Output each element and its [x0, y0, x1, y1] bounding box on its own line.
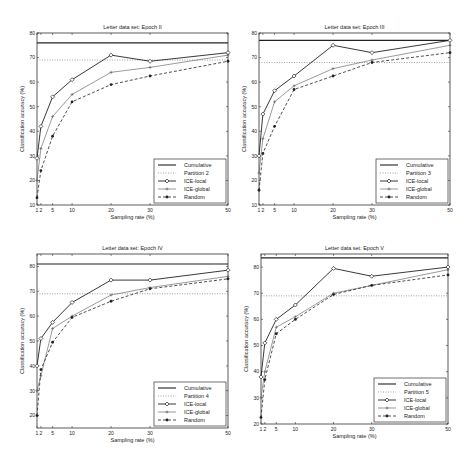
x-axis-label: Sampling rate (%): [110, 214, 154, 220]
y-axis-label: Classification accuracy (%): [241, 86, 247, 152]
y-tick-label: 80: [253, 264, 259, 270]
legend-entry: Random: [406, 194, 427, 200]
legend-entry: ICE-global: [184, 186, 210, 192]
legend-entry: Random: [184, 194, 205, 200]
y-tick-label: 60: [29, 79, 35, 85]
y-tick-label: 10: [29, 202, 35, 208]
chart-epoch-iv: Letter data set: Epoch IV203040506070801…: [0, 230, 237, 459]
y-tick-label: 70: [251, 54, 257, 60]
x-tick-label: 10: [69, 207, 75, 213]
x-tick-label: 2: [263, 426, 266, 432]
legend-entry: Partition 5: [404, 389, 429, 395]
y-tick-label: 40: [251, 128, 257, 134]
x-tick-label: 50: [445, 426, 451, 432]
chart-title: Letter data set: Epoch II: [103, 24, 162, 30]
legend: CumulativePartition 3ICE-localICE-global…: [376, 159, 448, 203]
x-tick-label: 5: [51, 207, 54, 213]
x-tick-label: 30: [147, 207, 153, 213]
y-tick-label: 50: [29, 338, 35, 344]
y-tick-label: 40: [29, 363, 35, 369]
y-tick-label: 30: [253, 395, 259, 401]
y-tick-label: 20: [253, 421, 259, 427]
legend: CumulativePartition 4ICE-localICE-global…: [154, 382, 226, 426]
x-tick-label: 50: [225, 207, 231, 213]
y-axis-label: Classification accuracy (%): [243, 306, 249, 372]
legend-entry: Cumulative: [184, 385, 212, 391]
x-tick-label: 2: [262, 207, 265, 213]
x-tick-label: 10: [291, 207, 297, 213]
legend-entry: Cumulative: [404, 381, 432, 387]
y-tick-label: 20: [29, 177, 35, 183]
x-tick-label: 2: [40, 207, 43, 213]
y-tick-label: 30: [29, 153, 35, 159]
x-axis-label: Sampling rate (%): [110, 437, 154, 443]
x-tick-label: 30: [369, 426, 375, 432]
y-tick-label: 40: [253, 368, 259, 374]
x-tick-label: 1: [258, 207, 261, 213]
legend-entry: ICE-local: [404, 397, 426, 403]
x-tick-label: 30: [369, 207, 375, 213]
y-axis-label: Classification accuracy (%): [19, 308, 25, 374]
chart-epoch-iii: Letter data set: Epoch III10203040506070…: [237, 0, 474, 230]
y-tick-label: 80: [251, 30, 257, 36]
x-tick-label: 1: [36, 207, 39, 213]
x-tick-label: 5: [275, 426, 278, 432]
legend: CumulativePartition 5ICE-localICE-global…: [374, 378, 446, 422]
legend-entry: Cumulative: [406, 162, 434, 168]
y-axis-label: Classification accuracy (%): [19, 86, 25, 152]
series-ice-local: [35, 268, 230, 368]
x-tick-label: 20: [108, 207, 114, 213]
series-ice-global: [36, 275, 230, 392]
x-tick-label: 10: [69, 430, 75, 436]
x-tick-label: 1: [260, 426, 263, 432]
y-tick-label: 30: [29, 388, 35, 394]
x-tick-label: 20: [331, 426, 337, 432]
legend-entry: Partition 4: [184, 393, 209, 399]
legend-entry: ICE-local: [184, 401, 206, 407]
x-tick-label: 5: [273, 207, 276, 213]
legend: CumulativePartition 2ICE-localICE-global…: [154, 159, 226, 203]
legend-entry: ICE-global: [184, 409, 210, 415]
y-tick-label: 60: [253, 316, 259, 322]
legend-entry: Random: [184, 417, 205, 423]
y-tick-label: 70: [253, 290, 259, 296]
y-tick-label: 60: [29, 313, 35, 319]
chart-title: Letter data set: Epoch IV: [102, 245, 163, 251]
x-axis-label: Sampling rate (%): [332, 433, 376, 439]
y-tick-label: 50: [251, 104, 257, 110]
y-tick-label: 40: [29, 128, 35, 134]
series-ice-local: [259, 265, 450, 379]
x-tick-label: 50: [225, 430, 231, 436]
y-tick-label: 80: [29, 263, 35, 269]
y-tick-label: 70: [29, 288, 35, 294]
y-tick-label: 80: [29, 30, 35, 36]
legend-entry: Random: [404, 413, 425, 419]
series-ice-local: [35, 51, 230, 161]
y-tick-label: 60: [251, 79, 257, 85]
x-axis-label: Sampling rate (%): [332, 214, 376, 220]
y-tick-label: 50: [253, 342, 259, 348]
legend-entry: ICE-local: [406, 178, 428, 184]
y-tick-label: 70: [29, 54, 35, 60]
y-tick-label: 30: [251, 153, 257, 159]
legend-entry: ICE-global: [406, 186, 432, 192]
x-tick-label: 20: [108, 430, 114, 436]
legend-entry: Partition 2: [184, 170, 209, 176]
legend-entry: ICE-local: [184, 178, 206, 184]
legend-entry: ICE-global: [404, 405, 430, 411]
chart-epoch-ii: Letter data set: Epoch II102030405060708…: [0, 0, 237, 230]
x-tick-label: 50: [447, 207, 453, 213]
legend-entry: Partition 3: [406, 170, 431, 176]
y-tick-label: 50: [29, 104, 35, 110]
x-tick-label: 10: [293, 426, 299, 432]
chart-epoch-v: Letter data set: Epoch V2030405060708012…: [237, 230, 474, 459]
chart-title: Letter data set: Epoch III: [325, 24, 385, 30]
y-tick-label: 20: [251, 177, 257, 183]
x-tick-label: 5: [51, 430, 54, 436]
x-tick-label: 2: [40, 430, 43, 436]
x-tick-label: 20: [330, 207, 336, 213]
x-tick-label: 1: [36, 430, 39, 436]
legend-entry: Cumulative: [184, 162, 212, 168]
chart-title: Letter data set: Epoch V: [325, 245, 384, 251]
y-tick-label: 20: [29, 412, 35, 418]
